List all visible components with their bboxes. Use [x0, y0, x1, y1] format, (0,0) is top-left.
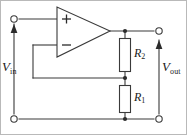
divider-midpoint-node-dot [123, 76, 127, 80]
input-positive-terminal [11, 16, 17, 22]
vin-symbol: V [2, 59, 10, 74]
vin-subscript: in [10, 67, 17, 76]
output-negative-terminal [156, 116, 162, 122]
opamp-triangle [57, 7, 110, 57]
vin-label: Vin [2, 58, 17, 76]
input-negative-terminal [11, 116, 17, 122]
resistor-r1-body [120, 86, 131, 113]
vin-arrowhead-icon [11, 24, 18, 33]
r2-subscript: 2 [141, 52, 145, 61]
circuit-diagram-figure: Vin Vout R2 R1 [0, 0, 187, 135]
resistor-r2-label: R2 [134, 44, 146, 61]
resistor-r2-body [120, 39, 131, 72]
vout-arrowhead-icon [156, 40, 163, 49]
ground-node-dot [123, 117, 127, 121]
circuit-schematic-svg [0, 0, 187, 135]
vout-subscript: out [170, 67, 181, 76]
r1-subscript: 1 [141, 96, 145, 105]
output-positive-terminal [156, 28, 162, 34]
output-node-dot [123, 29, 127, 33]
vout-label: Vout [162, 58, 181, 76]
vout-symbol: V [162, 59, 170, 74]
resistor-r1-label: R1 [134, 88, 146, 105]
